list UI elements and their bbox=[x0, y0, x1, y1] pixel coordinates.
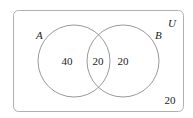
outside-count: 20 bbox=[165, 94, 177, 106]
intersection-count: 20 bbox=[93, 55, 105, 67]
set-b-label: B bbox=[155, 29, 162, 41]
universe-label: U bbox=[168, 17, 177, 29]
set-a-label: A bbox=[35, 29, 43, 41]
a-only-count: 40 bbox=[62, 55, 74, 67]
venn-diagram: U A B 40 20 20 20 bbox=[0, 0, 193, 118]
b-only-count: 20 bbox=[118, 55, 130, 67]
